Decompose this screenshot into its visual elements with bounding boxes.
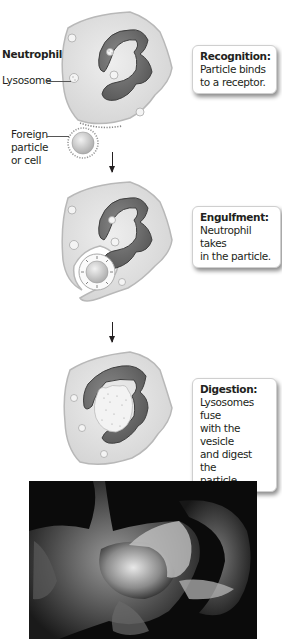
foreign-leader-line [47,136,69,137]
lysosome-leader-line [47,81,71,82]
step-body-line: Neutrophil takes [200,224,274,250]
step-box-engulfment: Engulfment: Neutrophil takes in the part… [192,206,281,268]
step-box-digestion: Digestion: Lysosomes fuse with the vesic… [192,378,277,492]
step-title: Digestion: [200,383,270,396]
neutrophil-cell-engulfment [60,180,185,305]
step-title: Engulfment: [200,211,274,224]
neutrophil-cell-digestion [62,350,182,468]
step-body-line: and digest the [200,448,270,474]
step-box-recognition: Recognition: Particle binds to a recepto… [192,45,277,94]
step-body-line: with the vesicle [200,422,270,448]
foreign-label-line2: particle [11,141,48,154]
step-body-line: Particle binds [200,63,270,76]
step-body-line: Lysosomes fuse [200,396,270,422]
foreign-label-line3: or cell [11,154,41,167]
electron-micrograph [29,481,257,639]
foreign-particle [66,126,100,160]
neutrophil-cell-recognition [60,10,185,130]
step-body-line: to a receptor. [200,76,270,89]
foreign-label-line1: Foreign [11,128,48,141]
lysosome-label: Lysosome [2,74,51,87]
step-body-line: in the particle. [200,250,274,263]
neutrophil-label: Neutrophil [2,48,62,61]
step-title: Recognition: [200,50,270,63]
arrow-down-icon [112,322,113,342]
arrow-down-icon [112,152,113,172]
